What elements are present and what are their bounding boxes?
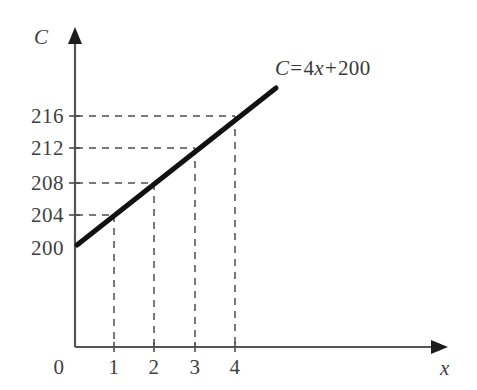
equation-intercept: 200	[338, 56, 370, 80]
x-tick-label-1: 1	[109, 357, 120, 378]
x-axis	[75, 340, 448, 354]
y-tick-label-212: 212	[0, 138, 64, 159]
x-axis-label: x	[440, 358, 449, 379]
y-tick-label-204: 204	[0, 205, 64, 226]
y-tick-label-208: 208	[0, 173, 64, 194]
equation-slope: 4	[303, 56, 314, 80]
equation-variable: x	[314, 56, 324, 80]
equation-plus-sign: +	[324, 56, 338, 80]
y-axis	[68, 27, 82, 347]
chart-figure: C x 0 216 212 208 204 200 1 2 3 4 C=4x+2…	[0, 0, 477, 390]
x-tick-label-3: 3	[190, 357, 201, 378]
y-tick-label-216: 216	[0, 106, 64, 127]
y-tick-label-200: 200	[0, 238, 64, 259]
horizontal-guide-lines	[76, 116, 235, 215]
equation-annotation: C=4x+200	[275, 58, 370, 79]
cost-line	[77, 88, 276, 245]
y-axis-label: C	[34, 27, 48, 48]
x-tick-label-4: 4	[230, 357, 241, 378]
chart-canvas	[0, 0, 477, 390]
origin-label: 0	[54, 357, 65, 378]
equation-equals-sign: =	[289, 56, 303, 80]
vertical-guide-lines	[114, 116, 235, 345]
x-tick-label-2: 2	[149, 357, 160, 378]
equation-lhs: C	[275, 56, 289, 80]
